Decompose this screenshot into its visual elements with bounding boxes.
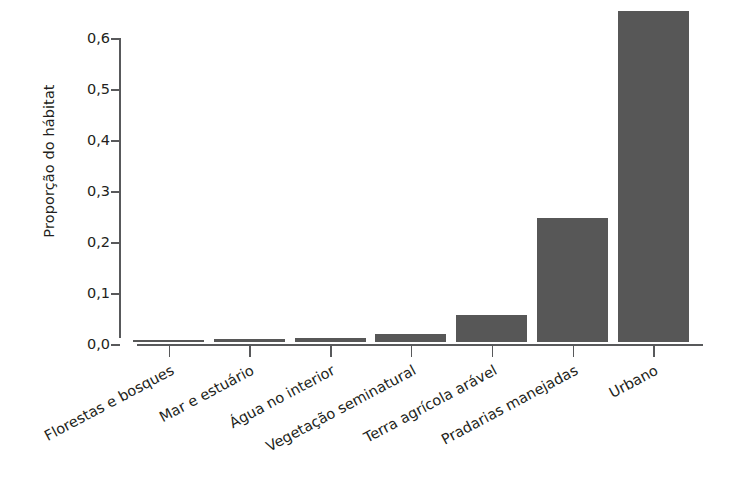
x-axis-tick-mark [249,344,251,357]
y-axis-tick-mark [111,38,120,40]
bar [537,218,608,342]
y-axis-tick-label: 0,2 [66,235,110,249]
x-axis-line [137,344,703,346]
y-axis-tick-label: 0,3 [66,184,110,198]
y-axis-tick-mark [111,344,120,346]
bar [375,334,446,342]
y-axis-tick-mark [111,191,120,193]
bar [295,338,366,342]
y-axis-title: Proporção do hábitat [41,46,57,276]
y-axis-tick-label: 0,6 [66,31,110,45]
y-axis-tick-label: 0,0 [66,337,110,351]
y-axis-tick-label: 0,4 [66,133,110,147]
bar-chart: Proporção do hábitat 0,00,10,20,30,40,50… [0,0,742,495]
bar [133,340,204,342]
y-axis-tick-mark [111,89,120,91]
x-axis-tick-mark [492,344,494,357]
x-axis-tick-mark [653,344,655,357]
y-axis-tick-mark [111,140,120,142]
x-axis-tick-mark [411,344,413,357]
bar [618,11,689,343]
x-axis-tick-mark [330,344,332,357]
y-axis-tick-mark [111,293,120,295]
bar [214,339,285,342]
y-axis-tick-label: 0,5 [66,82,110,96]
y-axis-tick-label: 0,1 [66,286,110,300]
y-axis-tick-mark [111,242,120,244]
x-axis-tick-mark [573,344,575,357]
bar [456,315,527,342]
x-axis-tick-mark [169,344,171,357]
